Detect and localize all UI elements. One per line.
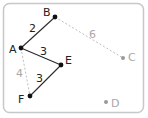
node-e — [59, 63, 64, 68]
edge-weight-e-f: 3 — [36, 72, 43, 85]
node-b — [53, 15, 58, 20]
node-label-e: E — [65, 54, 72, 67]
node-c — [121, 56, 125, 60]
node-label-b: B — [43, 6, 51, 19]
graph-diagram: 23346 ABCDEF — [0, 0, 148, 118]
node-label-f: F — [18, 93, 24, 106]
node-d — [104, 100, 108, 104]
node-a — [19, 46, 24, 51]
node-label-d: D — [111, 97, 119, 110]
node-label-a: A — [9, 43, 17, 56]
edge-weight-b-c: 6 — [89, 28, 96, 41]
edge-weight-a-e: 3 — [40, 45, 47, 58]
edge-weight-a-b: 2 — [29, 22, 36, 35]
node-f — [28, 94, 33, 99]
edge-weight-a-f: 4 — [16, 67, 23, 80]
node-label-c: C — [128, 51, 136, 64]
